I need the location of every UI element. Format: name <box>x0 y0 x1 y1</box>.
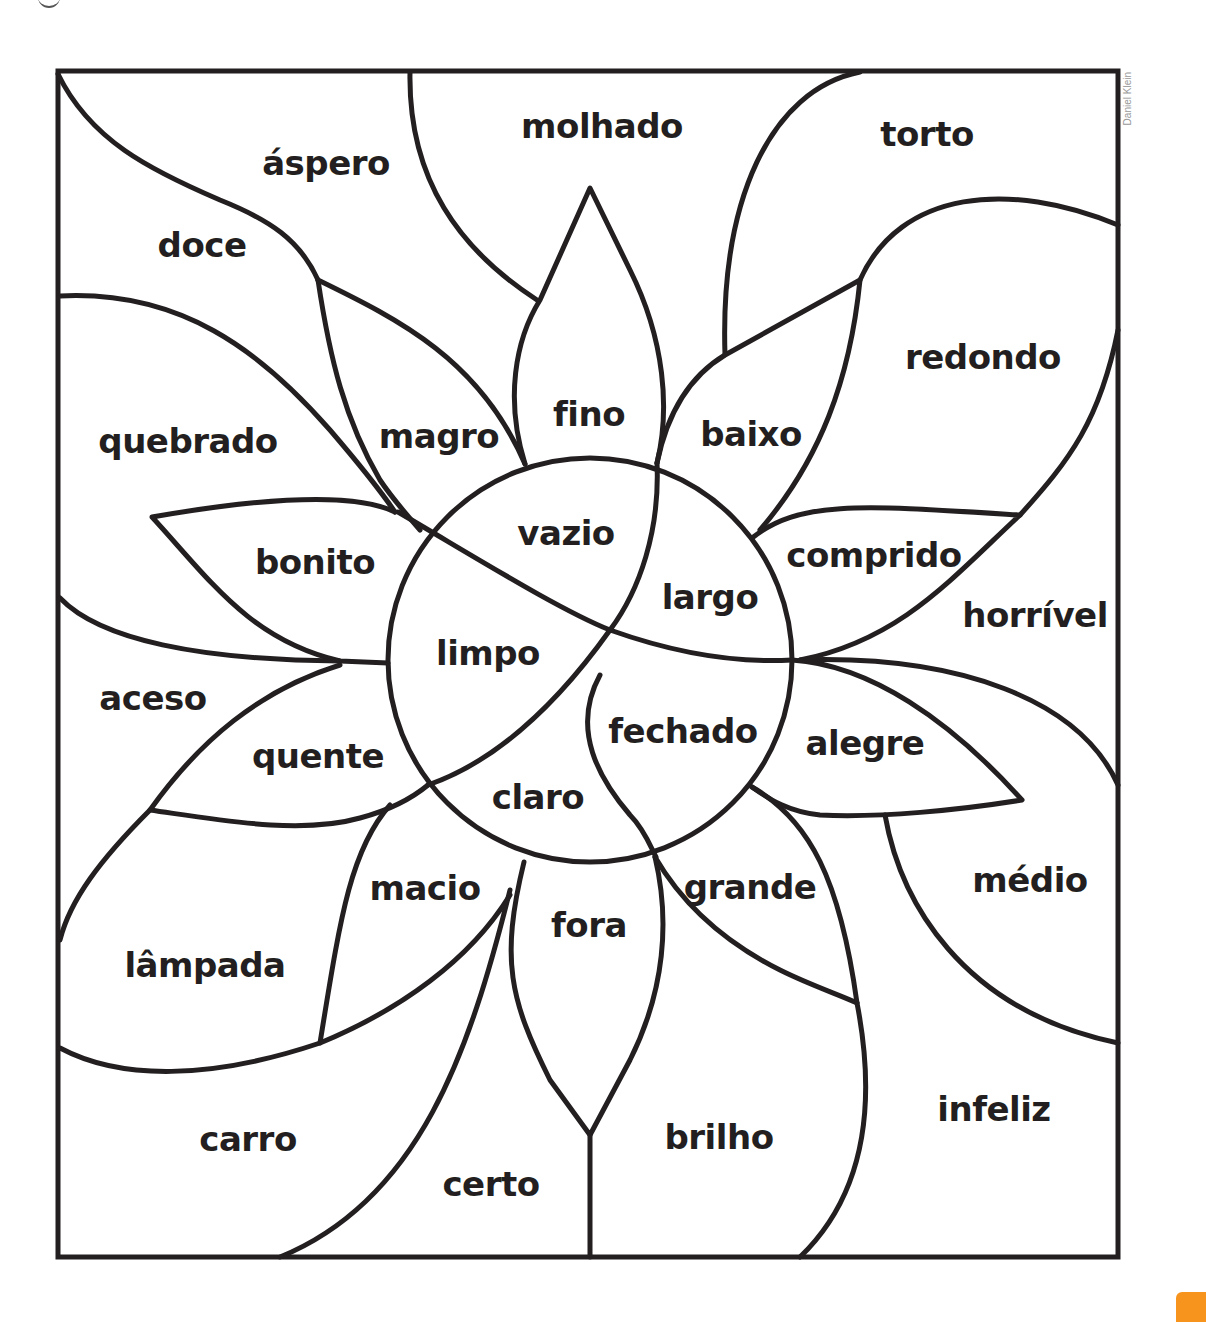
word-region-alegre[interactable]: alegre <box>806 723 925 763</box>
word-region-quente[interactable]: quente <box>252 736 384 776</box>
word-region-largo[interactable]: largo <box>662 577 759 617</box>
boundary-molhado <box>410 72 537 300</box>
boundary-medio <box>885 815 1118 1043</box>
word-region-magro[interactable]: magro <box>379 416 499 456</box>
petal-macio-left <box>320 805 390 1043</box>
circle-divider-3 <box>588 675 656 857</box>
word-region-brilho[interactable]: brilho <box>665 1117 774 1157</box>
word-region-vazio[interactable]: vazio <box>517 513 614 553</box>
word-region-macio[interactable]: macio <box>369 868 480 908</box>
word-region-infeliz[interactable]: infeliz <box>937 1089 1050 1129</box>
word-region-carro[interactable]: carro <box>199 1119 297 1159</box>
word-region-aceso[interactable]: aceso <box>99 678 206 718</box>
word-region-fino[interactable]: fino <box>553 394 625 434</box>
word-region-aspero[interactable]: áspero <box>262 143 390 183</box>
author-credit: Daniel Klein <box>1122 72 1133 125</box>
boundary-aceso-top <box>60 598 340 661</box>
word-region-certo[interactable]: certo <box>442 1164 539 1204</box>
petal-magro-left <box>318 280 420 530</box>
boundary-lampada-top <box>60 810 150 940</box>
word-region-claro[interactable]: claro <box>492 777 584 817</box>
boundary-grande-brilho <box>752 787 866 1257</box>
word-region-baixo[interactable]: baixo <box>700 414 802 454</box>
word-region-fora[interactable]: fora <box>551 905 627 945</box>
word-region-comprido[interactable]: comprido <box>786 535 961 575</box>
word-region-lampada[interactable]: lâmpada <box>124 945 285 985</box>
word-region-limpo[interactable]: limpo <box>436 633 540 673</box>
petal-fora <box>511 857 663 1135</box>
word-region-horrivel[interactable]: horrível <box>962 595 1108 635</box>
word-region-medio[interactable]: médio <box>972 860 1087 900</box>
word-region-fechado[interactable]: fechado <box>608 711 757 751</box>
word-region-redondo[interactable]: redondo <box>905 337 1061 377</box>
word-region-bonito[interactable]: bonito <box>255 542 375 582</box>
word-region-torto[interactable]: torto <box>880 114 974 154</box>
word-region-grande[interactable]: grande <box>684 867 817 907</box>
word-region-quebrado[interactable]: quebrado <box>98 421 277 461</box>
word-region-molhado[interactable]: molhado <box>521 106 683 146</box>
page-corner-tab <box>1176 1292 1206 1322</box>
word-region-doce[interactable]: doce <box>158 225 247 265</box>
boundary-torto <box>725 72 860 355</box>
